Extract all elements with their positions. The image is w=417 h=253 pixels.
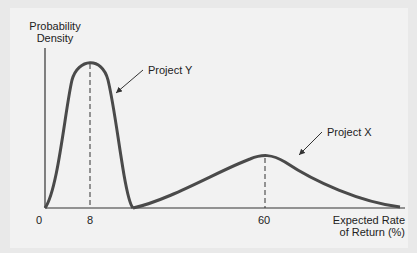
tick-8: 8	[87, 214, 93, 226]
x-axis-label: Expected Rate of Return (%)	[327, 214, 405, 238]
curve-project-x	[133, 156, 400, 208]
x-axis-label-line2: of Return (%)	[327, 226, 405, 238]
y-axis-label: Probability Density	[20, 20, 90, 44]
annotation-project-y: Project Y	[148, 64, 192, 76]
tick-60: 60	[258, 214, 270, 226]
tick-0: 0	[36, 214, 42, 226]
annotation-project-x: Project X	[327, 126, 372, 138]
curve-project-y	[45, 63, 133, 208]
y-axis-label-line2: Density	[20, 32, 90, 44]
arrow-project-y	[116, 70, 143, 93]
x-axis-label-line1: Expected Rate	[327, 214, 405, 226]
arrow-project-x	[299, 132, 322, 155]
y-axis-label-line1: Probability	[20, 20, 90, 32]
